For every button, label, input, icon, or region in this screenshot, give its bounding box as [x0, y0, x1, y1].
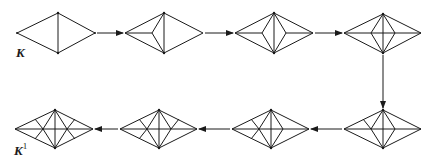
stage-4-diamond: [344, 14, 421, 53]
stage-7-diamond: [120, 110, 197, 148]
stage-6-diamond: [232, 110, 309, 148]
subdivision-diagram: [0, 0, 431, 161]
stage-2-diamond: [125, 13, 203, 53]
label-k1: K1: [14, 143, 27, 157]
label-k: K: [16, 46, 25, 59]
label-k1-superscript: 1: [23, 141, 28, 151]
stage-5-diamond: [344, 110, 421, 148]
label-k1-base: K: [14, 143, 23, 158]
stage-1-diamond: [17, 13, 95, 53]
stage-3-diamond: [235, 13, 313, 53]
